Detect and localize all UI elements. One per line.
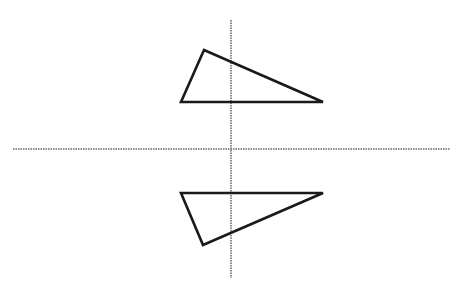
diagram-canvas xyxy=(0,0,464,294)
reflected-triangle xyxy=(181,193,323,245)
original-triangle xyxy=(181,50,323,102)
diagram-svg xyxy=(0,0,464,294)
